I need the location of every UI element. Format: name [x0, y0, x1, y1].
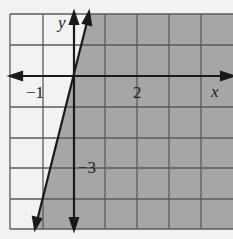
tick-label-2: 2 [133, 84, 142, 101]
shaded-region [35, 14, 233, 229]
tick-label-neg1: −1 [26, 84, 44, 101]
x-axis-label: x [211, 83, 219, 100]
y-axis-label: y [58, 14, 66, 31]
graph [0, 0, 233, 239]
tick-label-neg3: −3 [78, 159, 96, 176]
